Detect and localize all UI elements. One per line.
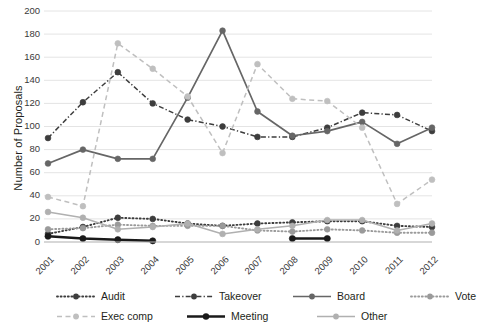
- legend-swatch-audit: [56, 291, 96, 302]
- legend-item-exec-comp[interactable]: Exec comp: [56, 310, 164, 322]
- legend-label: Exec comp: [101, 310, 153, 322]
- legend-label: Vote: [455, 290, 476, 302]
- legend-label: Meeting: [231, 310, 268, 322]
- legend-swatch-takeover: [174, 291, 214, 302]
- legend-row: Exec compMeetingOther: [0, 306, 438, 326]
- legend-swatch-meeting: [186, 311, 226, 322]
- legend-row: AuditTakeoverBoardVote: [0, 286, 438, 306]
- legend-swatch-other: [316, 311, 356, 322]
- legend-swatch-board: [292, 291, 332, 302]
- legend-item-other[interactable]: Other: [316, 310, 424, 322]
- legend-item-board[interactable]: Board: [292, 290, 388, 302]
- legend-swatch-vote: [410, 291, 450, 302]
- legend-item-audit[interactable]: Audit: [56, 290, 152, 302]
- gridlines: [44, 11, 432, 242]
- legend-label: Board: [337, 290, 365, 302]
- legend-swatch-exec-comp: [56, 311, 96, 322]
- legend-label: Audit: [101, 290, 125, 302]
- legend-item-takeover[interactable]: Takeover: [174, 290, 270, 302]
- chart-legend: AuditTakeoverBoardVoteExec compMeetingOt…: [0, 286, 438, 326]
- legend-item-vote[interactable]: Vote: [410, 290, 481, 302]
- legend-item-meeting[interactable]: Meeting: [186, 310, 294, 322]
- series-board: [45, 28, 435, 167]
- legend-label: Takeover: [219, 290, 262, 302]
- legend-label: Other: [361, 310, 387, 322]
- series-exec-comp: [45, 40, 435, 209]
